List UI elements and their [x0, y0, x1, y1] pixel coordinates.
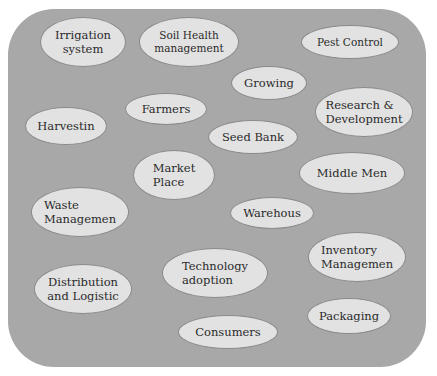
node-middle-men: Middle Men: [299, 152, 405, 194]
node-label: Warehous: [243, 206, 301, 220]
node-consumers: Consumers: [178, 315, 278, 349]
node-irrigation-system: Irrigation system: [40, 17, 126, 67]
node-label: Seed Bank: [222, 130, 284, 144]
node-label: Waste Managemen: [44, 198, 116, 226]
node-label: Market Place: [153, 161, 196, 189]
node-pest-control: Pest Control: [301, 25, 399, 59]
node-label: Soil Health management: [154, 29, 223, 55]
node-warehouse: Warehous: [230, 197, 314, 229]
ecosystem-diagram-background: Irrigation system Soil Health management…: [8, 9, 426, 367]
node-soil-health-management: Soil Health management: [139, 17, 239, 67]
node-label: Research & Development: [325, 98, 402, 126]
node-label: Distribution and Logistic: [47, 275, 119, 303]
node-label: Packaging: [319, 309, 379, 323]
node-waste-management: Waste Managemen: [31, 187, 129, 237]
node-packaging: Packaging: [307, 298, 391, 334]
node-label: Farmers: [142, 102, 191, 116]
node-label: Pest Control: [317, 36, 383, 49]
node-label: Harvestin: [37, 119, 94, 133]
node-distribution-logistic: Distribution and Logistic: [34, 264, 132, 314]
node-seed-bank: Seed Bank: [208, 120, 298, 154]
node-label: Technology adoption: [182, 259, 248, 287]
node-label: Consumers: [195, 325, 261, 339]
node-market-place: Market Place: [133, 150, 215, 200]
node-research-development: Research & Development: [315, 87, 413, 137]
node-label: Inventory Managemen: [321, 243, 393, 271]
node-technology-adoption: Technology adoption: [162, 248, 268, 298]
node-farmers: Farmers: [125, 93, 207, 125]
node-label: Middle Men: [317, 166, 387, 180]
node-harvestin: Harvestin: [25, 107, 107, 145]
node-inventory-management: Inventory Managemen: [308, 232, 406, 282]
node-growing: Growing: [231, 66, 307, 100]
node-label: Growing: [244, 76, 294, 90]
node-label: Irrigation system: [55, 28, 111, 56]
